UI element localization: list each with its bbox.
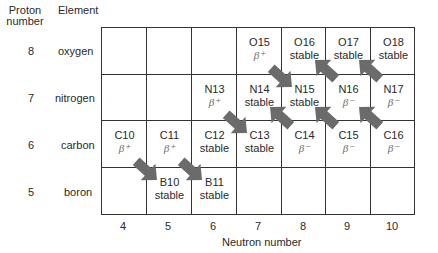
x-tick: 7 xyxy=(243,220,273,232)
cell-C13: C13 stable xyxy=(237,121,282,168)
row-element-oxygen: oxygen xyxy=(58,45,93,57)
isotope-grid: O15 β⁺ O16 stable O17 stable O18 stable … xyxy=(101,27,415,215)
decay-mode: stable xyxy=(237,142,282,155)
isotope-name: C15 xyxy=(326,129,371,142)
x-tick: 10 xyxy=(377,220,407,232)
decay-mode: β⁺ xyxy=(147,142,192,155)
decay-mode: stable xyxy=(282,49,327,62)
decay-mode: β⁻ xyxy=(326,142,371,155)
isotope-name: N17 xyxy=(371,83,416,96)
decay-mode: stable xyxy=(282,96,327,109)
isotope-name: O16 xyxy=(282,36,327,49)
decay-mode: stable xyxy=(147,189,192,202)
x-tick: 9 xyxy=(332,220,362,232)
proton-header-line2: number xyxy=(4,16,46,27)
isotope-name: N15 xyxy=(282,83,327,96)
cell-N15: N15 stable xyxy=(282,75,327,122)
decay-mode: β⁻ xyxy=(371,142,416,155)
decay-mode: β⁺ xyxy=(237,49,282,62)
row-element-carbon: carbon xyxy=(61,139,95,151)
isotope-name: C16 xyxy=(371,129,416,142)
isotope-name: C13 xyxy=(237,129,282,142)
cell-C14: C14 β⁻ xyxy=(282,121,327,168)
cell-O15: O15 β⁺ xyxy=(237,28,282,75)
decay-mode: stable xyxy=(371,49,416,62)
isotope-name: C10 xyxy=(102,129,147,142)
decay-mode: β⁻ xyxy=(282,142,327,155)
x-tick: 8 xyxy=(288,220,318,232)
decay-mode: stable xyxy=(237,96,282,109)
proton-number-header: Proton number xyxy=(4,5,46,27)
cell-C16: C16 β⁻ xyxy=(371,121,416,168)
cell-N13: N13 β⁺ xyxy=(192,75,237,122)
cell-C11: C11 β⁺ xyxy=(147,121,192,168)
x-tick: 6 xyxy=(198,220,228,232)
isotope-name: N13 xyxy=(192,83,237,96)
isotope-name: C12 xyxy=(192,129,237,142)
isotope-name: N16 xyxy=(326,83,371,96)
isotope-name: B10 xyxy=(147,176,192,189)
row-proton-7: 7 xyxy=(28,92,34,104)
isotope-name: O17 xyxy=(326,36,371,49)
row-proton-8: 8 xyxy=(28,45,34,57)
cell-C12: C12 stable xyxy=(192,121,237,168)
decay-mode: stable xyxy=(326,49,371,62)
decay-mode: β⁻ xyxy=(326,96,371,109)
cell-O18: O18 stable xyxy=(371,28,416,75)
row-proton-6: 6 xyxy=(28,139,34,151)
isotope-name: C14 xyxy=(282,129,327,142)
isotope-name: C11 xyxy=(147,129,192,142)
cell-B10: B10 stable xyxy=(147,168,192,215)
row-element-nitrogen: nitrogen xyxy=(55,92,95,104)
row-proton-5: 5 xyxy=(28,186,34,198)
cell-O17: O17 stable xyxy=(326,28,371,75)
isotope-name: O15 xyxy=(237,36,282,49)
isotope-name: B11 xyxy=(192,176,237,189)
row-element-boron: boron xyxy=(64,186,92,198)
cell-N17: N17 β⁻ xyxy=(371,75,416,122)
decay-mode: β⁻ xyxy=(371,96,416,109)
decay-mode: stable xyxy=(192,142,237,155)
decay-mode: β⁺ xyxy=(192,96,237,109)
isotope-name: O18 xyxy=(371,36,416,49)
cell-N16: N16 β⁻ xyxy=(326,75,371,122)
element-header: Element xyxy=(58,5,98,16)
decay-mode: β⁺ xyxy=(102,142,147,155)
cell-N14: N14 stable xyxy=(237,75,282,122)
x-axis-label: Neutron number xyxy=(222,236,302,248)
x-tick: 4 xyxy=(108,220,138,232)
isotope-name: N14 xyxy=(237,83,282,96)
cell-B11: B11 stable xyxy=(192,168,237,215)
cell-C15: C15 β⁻ xyxy=(326,121,371,168)
cell-O16: O16 stable xyxy=(282,28,327,75)
cell-C10: C10 β⁺ xyxy=(102,121,147,168)
decay-mode: stable xyxy=(192,189,237,202)
x-tick: 5 xyxy=(153,220,183,232)
